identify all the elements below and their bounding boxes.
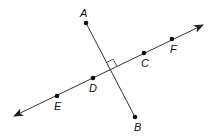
geometry-diagram: A B C D E F — [0, 0, 218, 139]
label-a: A — [79, 7, 87, 19]
point-a: A — [79, 7, 88, 25]
segment-ab — [86, 23, 135, 117]
line-ef — [14, 25, 203, 116]
point-f: F — [170, 37, 178, 55]
label-c: C — [141, 57, 149, 69]
point-d: D — [89, 76, 97, 94]
point-b: B — [133, 115, 142, 133]
label-f: F — [170, 43, 178, 55]
label-d: D — [89, 82, 97, 94]
point-c: C — [141, 51, 149, 69]
label-b: B — [134, 121, 141, 133]
label-e: E — [54, 100, 62, 112]
point-e: E — [54, 94, 62, 112]
